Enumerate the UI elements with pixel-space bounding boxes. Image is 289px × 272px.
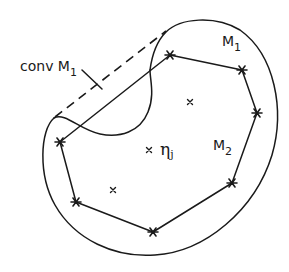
x-mark-icon: [188, 100, 193, 105]
x-mark-icon: [111, 188, 116, 193]
label-m2: M2: [213, 137, 232, 158]
convex-hull-diagram: conv M1 M1 M2 ηj: [0, 0, 289, 272]
x-mark-icon: [147, 148, 152, 153]
conv-m1-pointer: [82, 70, 102, 89]
outer-boundary-m1: [43, 20, 278, 255]
label-conv-m1: conv M1: [20, 58, 77, 79]
polygon-m2: [60, 55, 257, 232]
star-icon: [237, 66, 247, 74]
vertex-markers: [55, 51, 262, 236]
label-eta-j: ηj: [160, 139, 174, 161]
label-m1: M1: [222, 33, 241, 54]
interior-points: [111, 100, 193, 193]
star-icon: [252, 109, 262, 117]
